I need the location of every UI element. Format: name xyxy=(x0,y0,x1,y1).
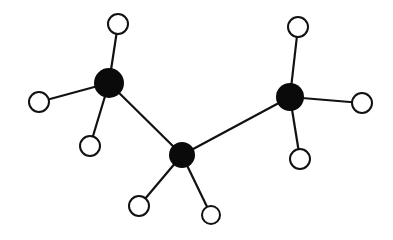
hydrogen-atom-h1 xyxy=(108,14,128,34)
hydrogen-atom-h6 xyxy=(288,17,308,37)
molecule-diagram xyxy=(0,0,393,240)
hydrogen-atom-h2 xyxy=(29,92,49,112)
carbon-atom-c3 xyxy=(276,83,304,111)
hydrogen-atom-h4 xyxy=(129,196,149,216)
hydrogen-atom-h3 xyxy=(80,136,100,156)
carbon-atom-c1 xyxy=(94,68,124,98)
hydrogen-atom-h8 xyxy=(290,149,310,169)
hydrogen-atom-h7 xyxy=(352,93,372,113)
bonds-group xyxy=(39,24,362,215)
bond-c1-c2 xyxy=(109,83,182,155)
bond-c2-c3 xyxy=(182,97,290,155)
propane-molecule-svg xyxy=(0,0,393,240)
carbon-atom-c2 xyxy=(169,142,195,168)
hydrogen-atom-h5 xyxy=(202,206,220,224)
